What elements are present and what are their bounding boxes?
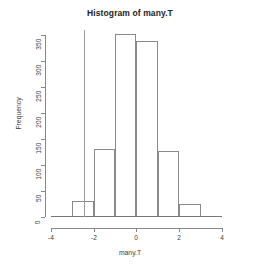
x-tick-mark <box>222 228 223 232</box>
y-tick-label: 300 <box>35 65 42 76</box>
y-tick-label: 150 <box>35 143 42 154</box>
histogram-bar <box>158 151 179 217</box>
y-tick-label-slot: 0 <box>24 217 38 218</box>
y-tick-label: 100 <box>35 169 42 180</box>
x-axis-title: many.T <box>0 249 260 256</box>
y-tick-label-slot: 200 <box>24 113 38 114</box>
y-tick-label-slot: 50 <box>24 191 38 192</box>
reference-line <box>84 30 85 217</box>
y-tick-label: 250 <box>35 91 42 102</box>
y-tick-mark <box>41 191 45 192</box>
histogram-bar <box>136 41 158 217</box>
y-tick-mark <box>41 87 45 88</box>
y-tick-mark <box>41 113 45 114</box>
x-tick-mark <box>51 228 52 232</box>
y-tick-label: 0 <box>35 221 42 225</box>
y-axis-line <box>45 35 46 217</box>
y-tick-mark <box>41 217 45 218</box>
y-tick-label-slot: 350 <box>24 35 38 36</box>
bar-baseline <box>51 216 222 217</box>
x-tick-mark <box>136 228 137 232</box>
x-tick-label: 4 <box>210 234 234 241</box>
y-tick-label-slot: 150 <box>24 139 38 140</box>
y-tick-label: 50 <box>35 195 42 202</box>
x-tick-label: 0 <box>124 234 148 241</box>
histogram-screenshot: Histogram of many.T 0 50 100 150 200 250 <box>0 0 260 266</box>
x-tick-mark <box>94 228 95 232</box>
x-tick-label: -4 <box>39 234 63 241</box>
y-tick-mark <box>41 35 45 36</box>
y-axis-title: Frequency <box>15 84 22 144</box>
y-tick-mark <box>41 61 45 62</box>
y-tick-mark <box>41 139 45 140</box>
x-tick-label: 2 <box>167 234 191 241</box>
histogram-bar <box>94 149 115 217</box>
y-tick-label: 350 <box>35 39 42 50</box>
y-tick-mark <box>41 165 45 166</box>
histogram-bar <box>72 201 94 217</box>
y-tick-label-slot: 100 <box>24 165 38 166</box>
x-tick-label: -2 <box>82 234 106 241</box>
histogram-bar <box>115 34 136 217</box>
y-tick-label-slot: 250 <box>24 87 38 88</box>
x-tick-mark <box>179 228 180 232</box>
y-tick-label: 200 <box>35 117 42 128</box>
plot-area: 0 50 100 150 200 250 300 350 Frequency <box>0 0 260 266</box>
y-tick-label-slot: 300 <box>24 61 38 62</box>
